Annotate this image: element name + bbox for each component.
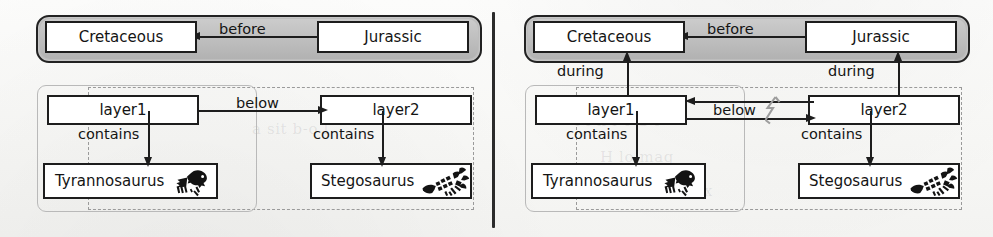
edge-contains2-arrowhead — [378, 157, 386, 167]
edge-contains1-arrowhead — [144, 157, 152, 167]
edge-contains1-line — [148, 111, 150, 160]
node-label-layer2: layer2 — [372, 103, 419, 118]
edge-below-fwd-arrowhead — [806, 114, 816, 122]
edge-during2-line — [898, 58, 900, 95]
edge-during1-arrowhead — [623, 51, 631, 61]
node-label-layer1: layer1 — [587, 103, 634, 118]
node-tyrannosaurus[interactable]: Tyrannosaurus — [43, 163, 218, 199]
node-label-stegosaurus: Stegosaurus — [321, 174, 414, 189]
node-label-tyrannosaurus: Tyrannosaurus — [55, 174, 164, 189]
edge-below-arrowhead — [318, 106, 328, 114]
edge-during2-arrowhead — [894, 51, 902, 61]
diagram-panel-right: before Cretaceous Jurassic during during… — [500, 0, 993, 237]
edge-label-below: below — [236, 96, 279, 111]
node-jurassic[interactable]: Jurassic — [805, 21, 957, 53]
edge-below-back-arrowhead — [685, 97, 695, 105]
node-label-layer1: layer1 — [99, 103, 146, 118]
node-label-layer2: layer2 — [860, 103, 907, 118]
stegosaurus-icon — [906, 166, 958, 204]
node-layer1[interactable]: layer1 — [535, 95, 687, 125]
edge-contains1-arrowhead — [632, 157, 640, 167]
edge-below-fwd-line — [687, 118, 809, 120]
lightning-bolt-icon — [762, 96, 784, 130]
edge-label-contains-2: contains — [313, 127, 374, 142]
tyrannosaurus-icon — [657, 167, 701, 203]
node-label-jurassic: Jurassic — [852, 30, 909, 45]
node-stegosaurus[interactable]: Stegosaurus — [798, 163, 960, 199]
node-label-tyrannosaurus: Tyrannosaurus — [543, 174, 652, 189]
node-label-cretaceous: Cretaceous — [79, 30, 164, 45]
node-cretaceous[interactable]: Cretaceous — [533, 21, 685, 53]
node-label-jurassic: Jurassic — [364, 30, 421, 45]
node-tyrannosaurus[interactable]: Tyrannosaurus — [531, 163, 706, 199]
edge-label-below: below — [713, 103, 756, 118]
node-layer2[interactable]: layer2 — [320, 95, 472, 125]
edge-contains2-arrowhead — [866, 157, 874, 167]
edge-label-during-2: during — [828, 64, 875, 79]
stegosaurus-icon — [418, 166, 470, 204]
node-cretaceous[interactable]: Cretaceous — [45, 21, 197, 53]
edge-contains2-line — [382, 111, 384, 160]
tyrannosaurus-icon — [169, 167, 213, 203]
edge-label-contains-1: contains — [78, 127, 139, 142]
node-stegosaurus[interactable]: Stegosaurus — [310, 163, 472, 199]
node-label-cretaceous: Cretaceous — [567, 30, 652, 45]
node-layer2[interactable]: layer2 — [808, 95, 960, 125]
node-layer1[interactable]: layer1 — [47, 95, 199, 125]
node-jurassic[interactable]: Jurassic — [317, 21, 469, 53]
edge-label-contains-2: contains — [801, 127, 862, 142]
diagram-panel-left: before Cretaceous Jurassic below contain… — [0, 0, 493, 237]
edge-label-before: before — [219, 22, 266, 37]
node-label-stegosaurus: Stegosaurus — [809, 174, 902, 189]
edge-label-during-1: during — [557, 64, 604, 79]
edge-contains2-line — [870, 111, 872, 160]
edge-label-before: before — [707, 22, 754, 37]
edge-during1-line — [627, 58, 629, 95]
edge-label-contains-1: contains — [566, 127, 627, 142]
edge-contains1-line — [636, 111, 638, 160]
